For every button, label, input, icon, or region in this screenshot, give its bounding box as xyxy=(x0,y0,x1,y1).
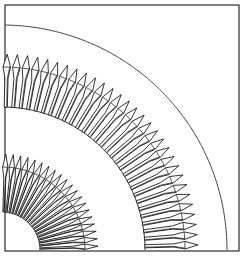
figure-root xyxy=(0,0,246,256)
blade-diagram xyxy=(0,0,246,256)
blade xyxy=(145,241,198,249)
outer-ring-blade-group xyxy=(3,54,198,249)
inner-ring-blade-group xyxy=(3,154,98,249)
